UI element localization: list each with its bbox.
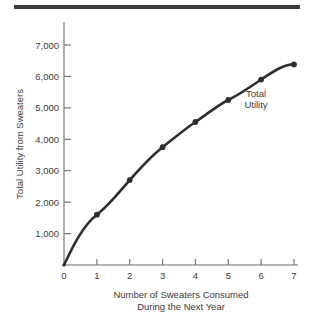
y-tick-label-1000: 1,000 — [35, 228, 59, 239]
data-point-0 — [62, 263, 65, 266]
x-tick-label-5: 5 — [226, 270, 231, 281]
y-tick-label-5000: 5,000 — [35, 102, 59, 113]
y-tick-label-2000: 2,000 — [35, 197, 59, 208]
y-tick-label-6000: 6,000 — [35, 71, 59, 82]
data-point-6 — [258, 77, 264, 83]
y-tick-label-3000: 3,000 — [35, 165, 59, 176]
x-tick-label-7: 7 — [291, 270, 296, 281]
series-annotation-line2: Utility — [244, 99, 267, 110]
series-annotation-line1: Total — [246, 88, 266, 99]
x-axis-ticks — [97, 259, 294, 265]
data-point-4 — [193, 119, 199, 125]
data-point-5 — [225, 97, 231, 103]
figure-total-utility-chart: 7,000 6,000 5,000 4,000 3,000 2,000 1,00… — [0, 0, 320, 324]
x-tick-label-1: 1 — [94, 270, 99, 281]
series-annotation-total-utility: Total Utility — [244, 88, 267, 110]
axes-group — [64, 22, 298, 265]
x-tick-label-4: 4 — [193, 270, 198, 281]
x-axis-tick-labels: 0 1 2 3 4 5 6 7 — [61, 270, 296, 281]
y-axis-title: Total Utility from Sweaters — [14, 89, 25, 199]
x-axis-title-line1: Number of Sweaters Consumed — [113, 289, 248, 300]
x-axis-title-line2: During the Next Year — [137, 301, 225, 312]
y-tick-label-7000: 7,000 — [35, 40, 59, 51]
x-tick-label-0: 0 — [61, 270, 66, 281]
x-tick-label-6: 6 — [258, 270, 263, 281]
data-point-7 — [291, 62, 297, 68]
x-tick-label-2: 2 — [127, 270, 132, 281]
data-point-3 — [160, 144, 166, 150]
y-tick-label-4000: 4,000 — [35, 134, 59, 145]
data-point-1 — [94, 212, 100, 218]
y-axis-tick-labels: 7,000 6,000 5,000 4,000 3,000 2,000 1,00… — [35, 40, 59, 240]
y-axis-ticks — [64, 45, 71, 234]
chart-plot-area: 7,000 6,000 5,000 4,000 3,000 2,000 1,00… — [0, 0, 320, 324]
x-tick-label-3: 3 — [160, 270, 165, 281]
data-point-2 — [127, 177, 133, 183]
